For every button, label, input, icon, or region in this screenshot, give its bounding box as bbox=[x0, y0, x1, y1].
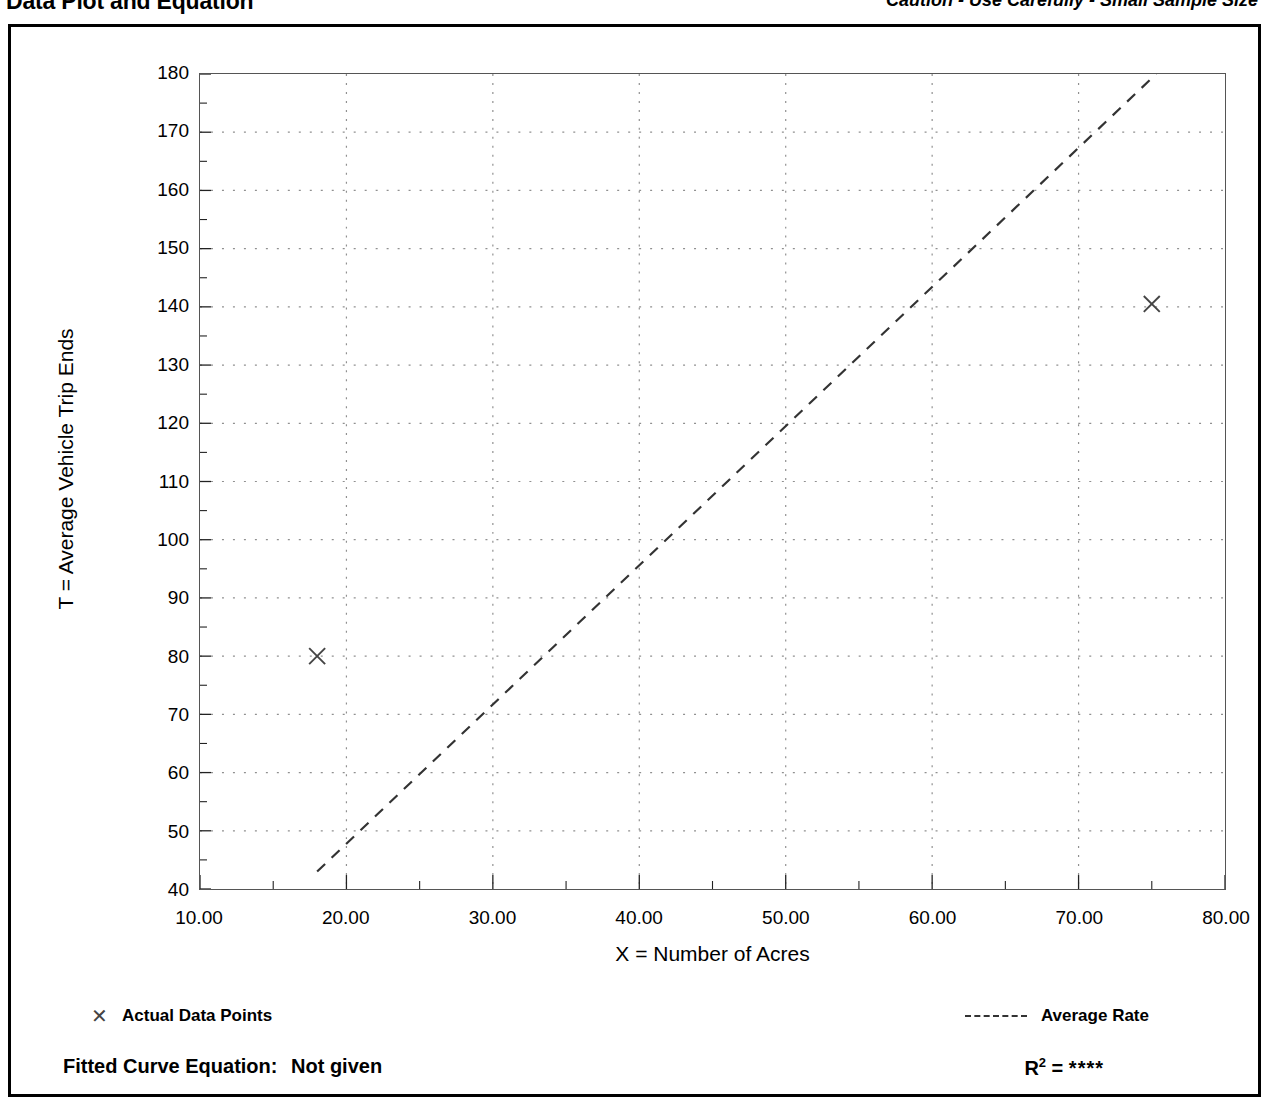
page-title: Data Plot and Equation bbox=[6, 0, 253, 15]
y-tick-label: 150 bbox=[157, 238, 189, 257]
x-tick-label: 70.00 bbox=[1056, 908, 1104, 927]
y-tick-label: 50 bbox=[168, 822, 189, 841]
x-axis-title: X = Number of Acres bbox=[199, 942, 1226, 966]
legend-item-average-rate: Average Rate bbox=[965, 1002, 1149, 1030]
x-tick-label: 10.00 bbox=[175, 908, 223, 927]
header-strip: Data Plot and Equation Caution - Use Car… bbox=[0, 0, 1272, 22]
y-tick-label: 160 bbox=[157, 180, 189, 199]
x-marker-icon: ✕ bbox=[91, 1006, 108, 1026]
legend-item-actual-data-points: ✕ Actual Data Points bbox=[91, 1002, 272, 1030]
r-squared-exponent: 2 bbox=[1039, 1055, 1046, 1070]
x-tick-label: 20.00 bbox=[322, 908, 370, 927]
y-axis-title: T = Average Vehicle Trip Ends bbox=[54, 89, 78, 849]
plot-card: T = Average Vehicle Trip Ends 4050607080… bbox=[8, 24, 1261, 1097]
dashed-line-icon bbox=[965, 1015, 1027, 1017]
fitted-curve-equation: Fitted Curve Equation: Not given bbox=[63, 1055, 382, 1078]
y-tick-label: 80 bbox=[168, 647, 189, 666]
y-tick-label: 110 bbox=[159, 472, 189, 491]
x-tick-label: 60.00 bbox=[909, 908, 957, 927]
x-tick-label: 40.00 bbox=[615, 908, 663, 927]
fitted-curve-equation-label: Fitted Curve Equation: bbox=[63, 1055, 277, 1077]
chart-plot-area bbox=[199, 73, 1226, 890]
r-squared-equals: = bbox=[1046, 1057, 1069, 1079]
x-tick-label: 50.00 bbox=[762, 908, 810, 927]
chart-legend: ✕ Actual Data Points Average Rate bbox=[11, 1002, 1264, 1036]
y-tick-label: 130 bbox=[157, 355, 189, 374]
y-tick-label: 90 bbox=[168, 588, 189, 607]
fitted-curve-equation-value: Not given bbox=[291, 1055, 382, 1077]
y-axis-tick-labels: 405060708090100110120130140150160170180 bbox=[141, 73, 189, 890]
y-tick-label: 40 bbox=[168, 880, 189, 899]
x-tick-label: 80.00 bbox=[1202, 908, 1250, 927]
r-squared-label: R bbox=[1024, 1057, 1038, 1079]
y-tick-label: 140 bbox=[157, 296, 189, 315]
x-axis-tick-labels: 10.0020.0030.0040.0050.0060.0070.0080.00 bbox=[199, 908, 1226, 934]
y-tick-label: 70 bbox=[168, 705, 189, 724]
caution-note: Caution - Use Carefully - Small Sample S… bbox=[886, 0, 1258, 11]
y-tick-label: 100 bbox=[157, 530, 189, 549]
y-tick-label: 170 bbox=[157, 121, 189, 140]
average-rate-line bbox=[317, 74, 1156, 872]
r-squared-value: **** bbox=[1069, 1057, 1104, 1079]
x-tick-label: 30.00 bbox=[469, 908, 517, 927]
data-point-marker bbox=[1144, 296, 1160, 312]
legend-label-actual-data-points: Actual Data Points bbox=[122, 1006, 272, 1026]
legend-label-average-rate: Average Rate bbox=[1041, 1006, 1149, 1026]
chart-canvas bbox=[200, 74, 1225, 889]
y-tick-label: 60 bbox=[168, 763, 189, 782]
y-tick-label: 120 bbox=[157, 413, 189, 432]
r-squared-statistic: R2 = **** bbox=[1024, 1055, 1104, 1080]
equation-row: Fitted Curve Equation: Not given R2 = **… bbox=[11, 1055, 1264, 1091]
y-tick-label: 180 bbox=[157, 63, 189, 82]
